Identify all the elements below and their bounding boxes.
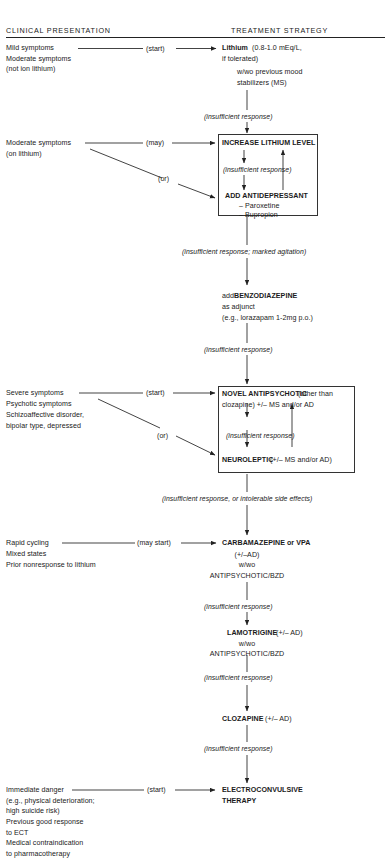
presentation-not-on-lithium: (not ion lithium) [6,64,55,75]
presentation-suicide-risk: high suicide risk) [6,806,60,817]
treatment-lamotrigine-wwo: w/wo [197,639,297,650]
outcome-label-5: (insufficient response) [204,602,273,613]
header-divider [6,37,385,38]
treatment-lithium-stabilizers: stabilizers (MS) [237,78,287,89]
treatment-clozapine: CLOZAPINE [222,714,263,725]
treatment-lithium-name: Lithium [222,43,248,54]
outcome-label-3: (insufficient response) [204,345,273,356]
presentation-on-lithium: (on lithium) [6,149,42,160]
treatment-clozapine-ad: (+/– AD) [263,714,292,725]
presentation-schizoaffective: Schizoaffective disorder, [6,410,84,421]
presentation-mixed-states: Mixed states [6,549,46,560]
treatment-carbamazepine-vpa: CARBAMAZEPINE or VPA [222,538,310,549]
edge-label-may-start: (may start) [137,538,171,549]
treatment-benzo-adjunct: as adjunct [222,302,255,313]
outcome-label-1: (insufficient response) [204,112,273,123]
column-header-right: TREATMENT STRATEGY [231,26,328,37]
treatment-carbamazepine-antipsychotic-bzd: ANTIPSYCHOTIC/BZD [187,571,307,582]
treatment-clozapine-ms-ad: clozapine) +/– MS and/or AD [222,400,314,411]
treatment-neuroleptic: NEUROLEPTIC [222,455,273,466]
edge-label-or-2: (or) [157,431,168,442]
edge-label-or-1: (or) [158,174,169,185]
treatment-electroconvulsive: ELECTROCONVULSIVE [222,785,303,796]
box2-insufficient-response: (insufficient response) [226,431,295,442]
treatment-bupropion: – Bupropion [239,210,278,221]
edge-label-start-antipsychotic: (start) [146,388,165,399]
edge-label-start-ect: (start) [147,785,166,796]
presentation-moderate-symptoms: Moderate symptoms [6,54,71,65]
treatment-novel-antipsychotic-other: (other than [296,389,333,400]
presentation-previous-good-response: Previous good response [6,817,84,828]
treatment-add-antidepressant: ADD ANTIDEPRESSANT [225,191,308,202]
outcome-label-2: (insufficient response; marked agitation… [182,247,306,258]
presentation-physical-deterioration: (e.g., physical deterioration; [6,796,95,807]
treatment-therapy: THERAPY [222,796,256,807]
presentation-psychotic-symptoms: Psychotic symptoms [6,399,72,410]
treatment-benzo-example: (e.g., lorazapam 1-2mg p.o.) [222,313,313,324]
column-header-left: CLINICAL PRESENTATION [6,26,111,37]
treatment-neuroleptic-rest: (+/– MS and/or AD) [268,455,332,466]
treatment-carbamazepine-ad: (+/–AD) [197,550,297,561]
edge-label-start-lithium: (start) [146,44,165,55]
edge-label-may: (may) [146,138,164,149]
presentation-to-ect: to ECT [6,828,28,839]
treatment-lithium-tolerated: if tolerated) [222,54,258,65]
presentation-to-pharmacotherapy: to pharmacotherapy [6,849,70,860]
presentation-bipolar-depressed: bipolar type, depressed [6,421,81,432]
outcome-label-4: (insufficient response, or intolerable s… [162,494,312,505]
presentation-rapid-cycling: Rapid cycling [6,538,49,549]
treatment-carbamazepine-wwo: w/wo [197,560,297,571]
outcome-label-6: (insufficient response) [204,673,273,684]
treatment-lamotrigine-antipsychotic-bzd: ANTIPSYCHOTIC/BZD [187,649,307,660]
outcome-label-7: (insufficient response) [204,744,273,755]
presentation-prior-nonresponse: Prior nonresponse to lithium [6,560,96,571]
treatment-lamotrigine-ad: (+/– AD) [274,628,303,639]
presentation-moderate-on-lithium: Moderate symptoms [6,138,71,149]
treatment-lithium-wwo-mood: w/wo previous mood [237,67,303,78]
treatment-lamotrigine: LAMOTRIGINE [227,628,277,639]
treatment-novel-antipsychotic: NOVEL ANTIPSYCHOTIC [222,389,307,400]
treatment-lithium-dose: (0.8-1.0 mEq/L, [250,43,302,54]
presentation-immediate-danger: Immediate danger [6,785,64,796]
presentation-severe-symptoms: Severe symptoms [6,388,64,399]
treatment-benzodiazepine: BENZODIAZEPINE [234,291,297,302]
presentation-medical-contraindication: Medical contraindication [6,838,83,849]
box1-insufficient-response: (insufficient response) [223,165,292,176]
presentation-mild-symptoms: Mild symptoms [6,43,54,54]
treatment-increase-lithium-level: INCREASE LITHIUM LEVEL [222,138,315,149]
